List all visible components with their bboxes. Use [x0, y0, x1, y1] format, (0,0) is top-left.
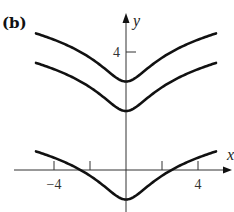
- y-axis-arrow-icon: [123, 13, 130, 23]
- x-axis-arrow-icon: [223, 167, 232, 174]
- panel-label: (b): [2, 14, 27, 32]
- x-tick-label: 4: [195, 177, 202, 192]
- y-tick-label: 4: [113, 45, 120, 60]
- y-axis-label: y: [131, 12, 141, 30]
- chart: (b) −444 y x: [0, 0, 234, 212]
- x-tick-label: −4: [47, 177, 62, 192]
- x-axis-label: x: [226, 146, 234, 163]
